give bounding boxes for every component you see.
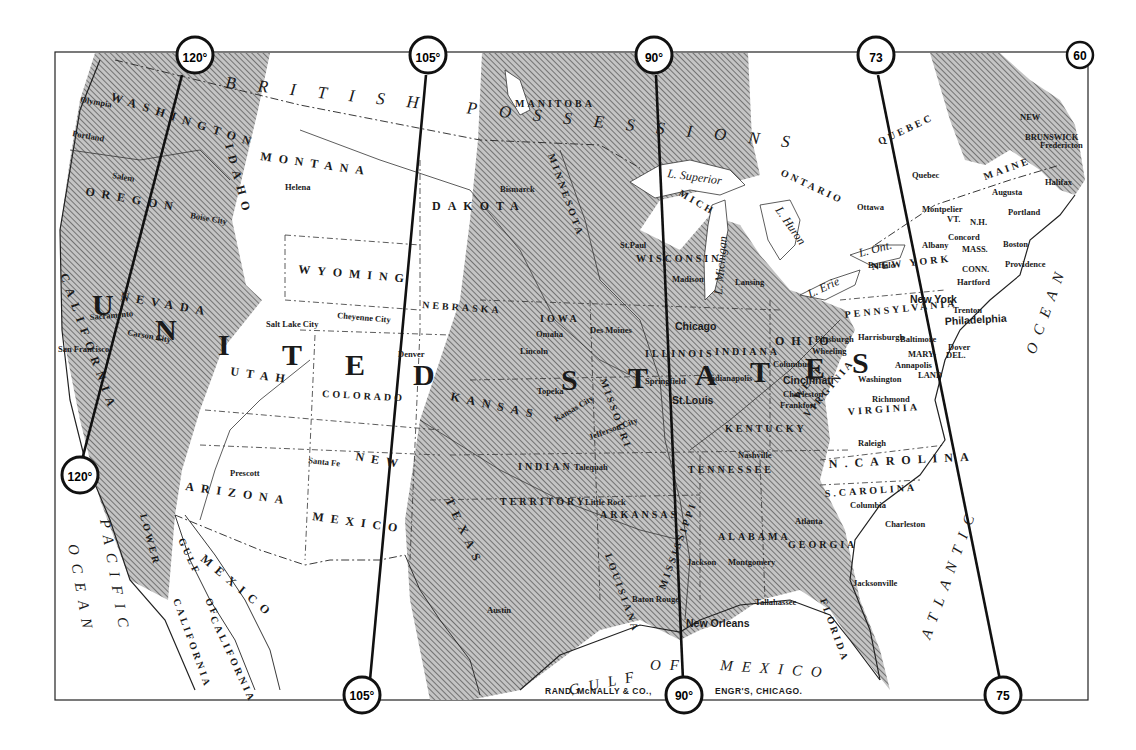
city-raleigh: Raleigh (858, 438, 886, 448)
city-new-orleans: New Orleans (686, 617, 750, 629)
city-springfield: Springfield (645, 376, 686, 386)
meridian-label: 90° (675, 689, 693, 703)
city-prescott: Prescott (230, 468, 260, 478)
indian-territory-label: TERRITORY (500, 496, 587, 507)
badge-105-bottom: 105° (344, 677, 380, 713)
badge-90-top: 90° (636, 37, 672, 73)
city-omaha: Omaha (536, 329, 564, 339)
city-chicago: Chicago (675, 320, 716, 332)
city-albany: Albany (922, 240, 949, 250)
city-charleston-wv: Charleston (783, 389, 823, 399)
city-new-york: New York (910, 293, 957, 305)
wisconsin-label: WISCONSIN (636, 253, 721, 264)
publisher-label: RAND, McNALLY & CO., (545, 686, 652, 696)
city-cincinnati: Cincinnati (783, 374, 834, 386)
indian-territory-label: INDIAN (518, 461, 573, 472)
city-annapolis: Annapolis (895, 360, 933, 370)
city-richmond: Richmond (872, 394, 910, 404)
city-des-moines: Des Moines (590, 325, 632, 335)
city-wheeling: Wheeling (812, 346, 847, 356)
city-jackson: Jackson (687, 557, 717, 567)
of-label: OF (650, 657, 688, 673)
meridian-label: 120° (68, 470, 93, 484)
city-austin: Austin (487, 605, 511, 615)
city-st-louis: St.Louis (672, 394, 714, 406)
connecticut-label: CONN. (962, 264, 989, 274)
meridian-label: 73 (869, 51, 883, 65)
meridian-label: 60 (1073, 49, 1087, 63)
city-frankfort: Frankfort (780, 400, 817, 410)
big-letter: S (561, 363, 580, 396)
city-fredericton: Fredericton (1040, 140, 1083, 150)
big-letter: T (282, 338, 304, 371)
city-montgomery: Montgomery (728, 557, 776, 567)
maryland-label: LAND (918, 370, 942, 380)
vermont-label: VT. (947, 214, 960, 224)
city-buffalo: Buffalo (868, 260, 895, 270)
city-nashville: Nashville (738, 450, 772, 460)
city-columbia: Columbia (850, 500, 887, 510)
city-ottawa: Ottawa (857, 202, 885, 212)
dakota-label: DAKOTA (432, 199, 526, 213)
city-concord: Concord (948, 232, 980, 242)
city-harrisburgh: Harrisburgh (858, 332, 905, 342)
tennessee-label: TENNESSEE (688, 464, 774, 475)
city-trenton: Trenton (953, 305, 982, 315)
badge-120-bottom: 120° (62, 457, 98, 493)
city-hartford: Hartford (957, 277, 990, 287)
city-halifax: Halifax (1045, 177, 1073, 187)
city-talequah: Talequah (574, 462, 608, 472)
city-dover: Dover (948, 342, 970, 352)
georgia-label: GEORGIA (788, 539, 857, 550)
city-charleston-sc: Charleston (885, 519, 925, 529)
meridian-label: 105° (416, 51, 441, 65)
city-jacksonville: Jacksonville (853, 578, 898, 588)
city-madison: Madison (672, 274, 704, 284)
meridian-label: 90° (645, 51, 663, 65)
city-augusta: Augusta (992, 187, 1023, 197)
city-denver: Denver (398, 349, 425, 359)
indiana-label: INDIANA (715, 346, 780, 357)
meridian-label: 105° (350, 689, 375, 703)
city-st-paul: St.Paul (620, 240, 647, 250)
badge-105-top: 105° (410, 37, 446, 73)
city-baton-rouge: Baton Rouge (632, 594, 679, 604)
city-columbus: Columbus (773, 359, 811, 369)
city-quebec: Quebec (912, 170, 940, 180)
badge-90-bottom: 90° (666, 677, 702, 713)
new-brunswick-label: NEW (1020, 112, 1041, 122)
big-letter: D (413, 358, 437, 391)
badge-75-bottom: 75 (985, 677, 1021, 713)
big-letter: E (345, 348, 367, 381)
time-zone-map: 120° 105° 90° 73 60 120° 105° 90° 75 U N… (0, 0, 1136, 750)
massachusetts-label: MASS. (962, 244, 988, 254)
city-salt-lake: Salt Lake City (266, 319, 319, 329)
city-san-francisco: San Francisco (58, 344, 109, 354)
meridian-label: 75 (996, 689, 1010, 703)
badge-120-top: 120° (177, 37, 213, 73)
maryland-label: MARY- (908, 349, 936, 359)
city-pittsburgh: Pittsburgh (815, 334, 854, 344)
city-little-rock: Little Rock (585, 497, 626, 507)
city-atlanta: Atlanta (795, 516, 823, 526)
city-helena: Helena (285, 182, 311, 192)
arkansas-label: ARKANSAS (600, 509, 679, 520)
city-topeka: Topeka (537, 386, 564, 396)
new-hampshire-label: N.H. (970, 217, 987, 227)
badge-75-top: 73 (858, 37, 894, 73)
city-washington: Washington (858, 374, 902, 384)
city-baltimore: Baltimore (900, 334, 936, 344)
kentucky-label: KENTUCKY (725, 423, 807, 434)
badge-60-top: 60 (1067, 42, 1093, 68)
meridian-label: 120° (183, 51, 208, 65)
city-lansing: Lansing (735, 277, 765, 287)
city-boston: Boston (1003, 239, 1028, 249)
big-letter: T (750, 355, 772, 388)
city-tallahassee: Tallahassee (755, 597, 796, 607)
city-indianapolis: Indianapolis (707, 373, 753, 383)
city-lincoln: Lincoln (520, 346, 548, 356)
alabama-label: ALABAMA (718, 531, 791, 542)
illinois-label: ILLINOIS (645, 348, 715, 359)
big-letter: I (218, 328, 232, 361)
city-bismarck: Bismarck (500, 184, 535, 194)
